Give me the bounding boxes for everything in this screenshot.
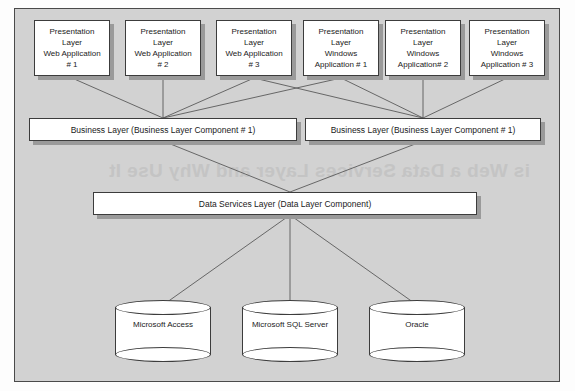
presentation-web-app-3[interactable]: PresentationLayerWeb Application# 3 bbox=[216, 20, 292, 76]
data-services-layer[interactable]: Data Services Layer (Data Layer Componen… bbox=[93, 192, 477, 215]
presentation-windows-app-3[interactable]: PresentationLayerWindowsApplication # 3 bbox=[469, 20, 545, 76]
node-label: PresentationLayerWindowsApplication # 1 bbox=[315, 26, 367, 70]
node-label: PresentationLayerWeb Application# 3 bbox=[225, 26, 282, 70]
node-label: Data Services Layer (Data Layer Componen… bbox=[199, 199, 371, 209]
database-oracle[interactable]: Oracle bbox=[369, 300, 465, 362]
database-microsoft-access[interactable]: Microsoft Access bbox=[115, 300, 211, 362]
database-label: Oracle bbox=[369, 320, 465, 329]
cylinder-top bbox=[242, 300, 338, 315]
database-label: Microsoft SQL Server bbox=[242, 320, 338, 329]
node-label: PresentationLayerWeb Application# 1 bbox=[43, 26, 100, 70]
presentation-windows-app-2[interactable]: PresentationLayerWindowsApplication# 2 bbox=[385, 20, 461, 76]
diagram-page: is Web a Data Services Layer and Why Use… bbox=[0, 0, 575, 391]
node-label: PresentationLayerWindowsApplication # 3 bbox=[481, 26, 533, 70]
node-label: Business Layer (Business Layer Component… bbox=[71, 125, 256, 135]
cylinder-bottom bbox=[369, 347, 465, 362]
database-microsoft-sql-server[interactable]: Microsoft SQL Server bbox=[242, 300, 338, 362]
presentation-windows-app-1[interactable]: PresentationLayerWindowsApplication # 1 bbox=[303, 20, 379, 76]
cylinder-top bbox=[115, 300, 211, 315]
presentation-web-app-2[interactable]: PresentationLayerWeb Application# 2 bbox=[125, 20, 201, 76]
cylinder-bottom bbox=[242, 347, 338, 362]
cylinder-bottom bbox=[115, 347, 211, 362]
database-label: Microsoft Access bbox=[115, 320, 211, 329]
node-label: Business Layer (Business Layer Component… bbox=[331, 125, 516, 135]
cylinder-top bbox=[369, 300, 465, 315]
node-label: PresentationLayerWeb Application# 2 bbox=[134, 26, 191, 70]
presentation-web-app-1[interactable]: PresentationLayerWeb Application# 1 bbox=[34, 20, 110, 76]
node-label: PresentationLayerWindowsApplication# 2 bbox=[398, 26, 448, 70]
business-layer-right[interactable]: Business Layer (Business Layer Component… bbox=[305, 118, 541, 141]
business-layer-left[interactable]: Business Layer (Business Layer Component… bbox=[29, 118, 297, 141]
